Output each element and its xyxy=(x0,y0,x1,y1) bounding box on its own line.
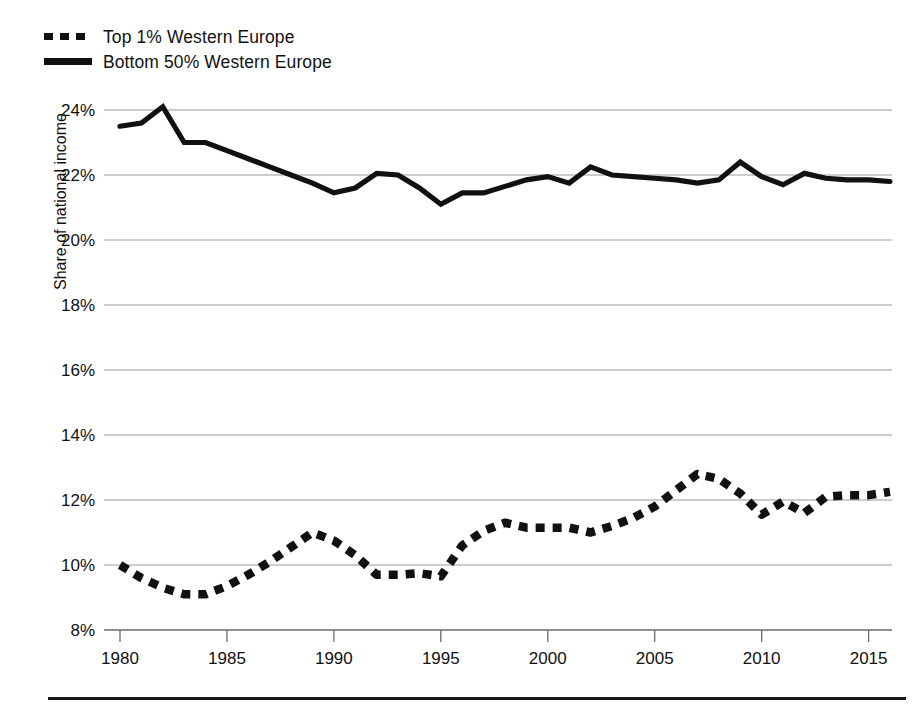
y-axis-tick-label: 14% xyxy=(40,427,95,444)
y-axis-tick-label: 12% xyxy=(40,492,95,509)
y-axis-tick-label: 18% xyxy=(40,297,95,314)
gridlines xyxy=(104,110,892,565)
series-line xyxy=(120,474,890,594)
chart-figure: Top 1% Western Europe Bottom 50% Western… xyxy=(0,0,922,727)
y-axis-title-text: Share of national income xyxy=(52,268,70,290)
y-axis-tick-label: 16% xyxy=(40,362,95,379)
x-axis-tick-label: 1985 xyxy=(208,650,246,667)
plot-canvas xyxy=(0,0,922,700)
x-axis-tick-label: 2015 xyxy=(850,650,888,667)
series-line xyxy=(120,107,890,205)
y-axis-title: Share of national income xyxy=(52,268,70,290)
x-axis-tick-label: 2005 xyxy=(636,650,674,667)
data-series-layer xyxy=(120,107,890,595)
x-axis-tick-label: 2000 xyxy=(529,650,567,667)
plot-area: 8%10%12%14%16%18%20%22%24% 1980198519901… xyxy=(0,0,922,700)
y-axis-tick-label: 8% xyxy=(40,622,95,639)
x-axis-tick-label: 1990 xyxy=(315,650,353,667)
x-axis-tick-label: 1995 xyxy=(422,650,460,667)
footer-rule xyxy=(48,697,906,700)
x-axis-tick-label: 1980 xyxy=(101,650,139,667)
x-axis-ticks xyxy=(120,630,869,642)
x-axis-tick-label: 2010 xyxy=(743,650,781,667)
y-axis-tick-label: 10% xyxy=(40,557,95,574)
